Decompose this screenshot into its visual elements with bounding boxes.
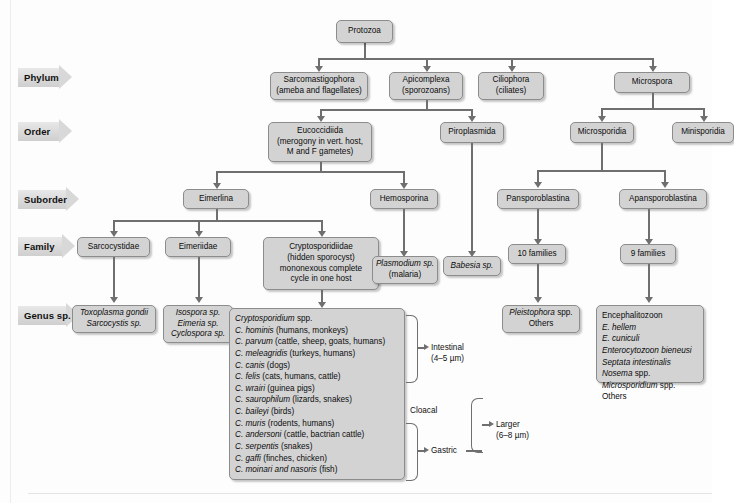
node-ciliophora[interactable]: Ciliophora (ciliates) <box>478 72 544 100</box>
annotation-intestinal: Intestinal (4–5 µm) <box>431 342 464 364</box>
crypto-line: C. canis (dogs) <box>235 360 290 372</box>
rank-arrow-head-icon <box>62 234 75 258</box>
crypto-line: C. gaffi (finches, chicken) <box>235 453 327 465</box>
connector-family-bus <box>113 220 322 222</box>
crypto-line: C. parvum (cattle, sheep, goats, humans) <box>235 336 385 348</box>
node-eimerlina[interactable]: Eimerlina <box>183 189 249 209</box>
node-babesia[interactable]: Babesia sp. <box>443 256 501 276</box>
node-minisporidia[interactable]: Minisporidia <box>672 122 734 143</box>
connector-root-stem <box>364 43 366 59</box>
encephalitozoon-line: Septata intestinalis <box>602 357 671 369</box>
node-microspora[interactable]: Microspora <box>614 72 690 93</box>
encephalitozoon-line: Microsporidium spp. <box>602 380 675 392</box>
node-piroplasmida[interactable]: Piroplasmida <box>440 122 504 143</box>
node-sarcocystidae-l1: Sarcocystidae <box>88 242 139 253</box>
arrow-sarcocystidae-genus <box>110 297 118 303</box>
node-apansporoblastina-l1: Apansporoblastina <box>629 194 697 205</box>
encephalitozoon-line: Nosema spp. <box>602 368 650 380</box>
node-sarcocystidae[interactable]: Sarcocystidae <box>77 237 150 257</box>
connector-order-bus-microspora <box>601 108 703 110</box>
crypto-line: C. meleagridis (turkeys, humans) <box>235 348 355 360</box>
arrow-9families-genus <box>645 297 653 303</box>
node-plasmodium[interactable]: Plasmodium sp. (malaria) <box>372 256 438 284</box>
annotation-cloacal-l1: Cloacal <box>410 405 437 416</box>
node-eucoccidiida[interactable]: Eucoccidiida (merogony in vert. host, M … <box>268 122 372 162</box>
node-genus-cryptosporidium-list[interactable]: Cryptosporidium spp. C. hominis (humans,… <box>229 308 405 480</box>
bracket-intestinal <box>406 315 418 383</box>
node-microsporidia[interactable]: Microsporidia <box>570 122 634 143</box>
node-protozoa[interactable]: Protozoa <box>336 20 393 43</box>
annotation-cloacal: Cloacal <box>410 405 437 416</box>
node-9-families[interactable]: 9 families <box>620 244 676 264</box>
node-pansporoblastina[interactable]: Pansporoblastina <box>497 189 579 209</box>
rank-label-suborder: Suborder <box>18 190 80 209</box>
node-apansporoblastina[interactable]: Apansporoblastina <box>619 189 707 209</box>
node-cryptosporidiidae-l2: (hidden sporocyst) <box>287 253 354 264</box>
node-ciliophora-l1: Ciliophora <box>493 75 530 86</box>
node-ciliophora-l2: (ciliates) <box>496 86 526 97</box>
rank-label-genus: Genus sp. <box>18 306 80 325</box>
connector-pansporoblastina-to-10families <box>537 209 539 241</box>
genus-toxoplasma-gondii: Toxoplasma gondii <box>80 308 148 319</box>
connector-microsporidia-stem <box>601 143 603 171</box>
connector-hemosporina-to-plasmodium <box>403 209 405 253</box>
node-9-families-l1: 9 families <box>631 249 666 260</box>
encephalitozoon-line: Enterocytozoon bieneusi <box>602 345 692 357</box>
node-genus-encephalitozoon[interactable]: Encephalitozoon E. hellem E. cuniculi En… <box>596 305 704 383</box>
node-cryptosporidiidae[interactable]: Cryptosporidiidae (hidden sporocyst) mon… <box>263 237 379 290</box>
node-hemosporina[interactable]: Hemosporina <box>370 189 438 209</box>
encephalitozoon-others: Others <box>602 391 627 403</box>
annotation-gastric-l1: Gastric <box>431 445 457 456</box>
rank-label-order: Order <box>18 122 72 141</box>
node-genus-pleistophora[interactable]: Pleistophora spp. Others <box>502 305 580 333</box>
node-eimeriidae[interactable]: Eimeriidae <box>165 237 231 257</box>
crypto-line: C. saurophilum (lizards, snakes) <box>235 394 352 406</box>
node-plasmodium-l2: (malaria) <box>389 270 421 281</box>
annotation-intestinal-l2: (4–5 µm) <box>431 353 464 364</box>
connector-10families-to-pleistophora <box>537 264 539 299</box>
node-sarcomastigophora[interactable]: Sarcomastigophora (ameba and flagellates… <box>270 72 368 100</box>
annotation-larger-l2: (6–8 µm) <box>496 430 529 441</box>
node-apicomplexa-l1: Apicomplexa <box>403 75 450 86</box>
crypto-line: C. felis (cats, humans, cattle) <box>235 371 341 383</box>
arrow-eimeriidae-genus <box>195 297 203 303</box>
node-hemosporina-l1: Hemosporina <box>380 194 429 205</box>
encephalitozoon-line: Encephalitozoon <box>602 310 663 322</box>
node-apicomplexa[interactable]: Apicomplexa (sporozoans) <box>389 72 463 100</box>
arrow-larger <box>489 421 494 427</box>
page-footer-rule <box>28 493 712 494</box>
arrow-to-apansporoblastina <box>661 182 669 188</box>
node-genus-sarcocystidae[interactable]: Toxoplasma gondii Sarcocystis sp. <box>72 305 156 333</box>
crypto-line: Cryptosporidium spp. <box>235 313 312 325</box>
annotation-larger: Larger (6–8 µm) <box>496 419 529 441</box>
rank-label-family-text: Family <box>18 241 55 252</box>
node-sarcomastigophora-l2: (ameba and flagellates) <box>276 86 362 97</box>
node-eimerlina-l1: Eimerlina <box>199 194 233 205</box>
rank-arrow-head-icon <box>59 65 72 89</box>
node-plasmodium-l1: Plasmodium sp. <box>376 259 434 270</box>
genus-eimeria-sp: Eimeria sp. <box>178 319 219 330</box>
node-babesia-l1: Babesia sp. <box>451 261 494 272</box>
genus-cyclospora-sp: Cyclospora sp. <box>171 329 225 340</box>
node-eucoccidiida-l2: (merogony in vert. host, <box>277 137 363 148</box>
node-cryptosporidiidae-l4: cycle in one host <box>291 274 352 285</box>
node-genus-eimeriidae[interactable]: Isospora sp. Eimeria sp. Cyclospora sp. <box>163 305 233 343</box>
arrow-to-pansporoblastina <box>534 182 542 188</box>
node-minisporidia-l1: Minisporidia <box>681 127 725 138</box>
connector-phylum-bus <box>318 58 653 60</box>
node-microsporidia-l1: Microsporidia <box>578 127 627 138</box>
pleistophora-line: Pleistophora spp. <box>509 308 572 319</box>
annotation-intestinal-l1: Intestinal <box>431 342 464 353</box>
crypto-line: C. andersoni (cattle, bactrian cattle) <box>235 429 364 441</box>
annotation-larger-l1: Larger <box>496 419 529 430</box>
connector-sarcocystidae-to-genus <box>113 257 115 299</box>
node-microspora-l1: Microspora <box>632 77 673 88</box>
crypto-line: C. serpentis (snakes) <box>235 441 312 453</box>
rank-label-order-text: Order <box>18 126 50 137</box>
node-cryptosporidiidae-l3: mononexous complete <box>280 264 362 275</box>
node-10-families[interactable]: 10 families <box>508 244 566 264</box>
encephalitozoon-line: E. cuniculi <box>602 333 639 345</box>
node-eimeriidae-l1: Eimeriidae <box>179 242 218 253</box>
rank-label-phylum-text: Phylum <box>18 72 59 83</box>
node-cryptosporidiidae-l1: Cryptosporidiidae <box>289 242 353 253</box>
